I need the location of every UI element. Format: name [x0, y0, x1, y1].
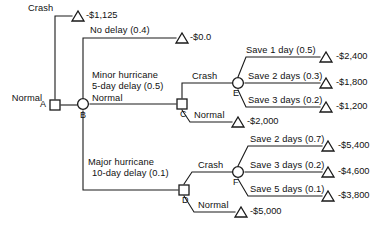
branch-label-normal-a-left: Normal — [0, 93, 57, 104]
edge-c-crash — [182, 83, 232, 98]
node-b-circle — [78, 99, 89, 110]
branch-label-save-5-days-f: Save 5 days (0.1) — [250, 184, 325, 195]
branch-label-normal-a: Normal — [92, 93, 123, 104]
branch-label-save-3-days-e: Save 3 days (0.2) — [248, 95, 323, 106]
node-c-square — [177, 99, 187, 109]
payoff-save-3-days-e: -$1,200 — [336, 101, 368, 111]
branch-label-normal-d: Normal — [198, 200, 229, 211]
edge-d-crash — [184, 172, 232, 184]
branch-label-crash-top: Crash — [28, 3, 53, 14]
terminal-save-1-day — [320, 52, 332, 62]
branch-label-save-3-days-f: Save 3 days (0.2) — [250, 160, 325, 171]
node-label-b: B — [80, 110, 86, 120]
branch-label-save-1-day: Save 1 day (0.5) — [246, 45, 316, 56]
terminal-crash-top — [72, 11, 84, 21]
payoff-save-2-days-f: -$5,400 — [338, 140, 370, 150]
payoff-no-delay: -$0.0 — [190, 32, 211, 42]
payoff-save-3-days-f: -$4,600 — [338, 166, 370, 176]
terminal-normal-c — [232, 117, 244, 127]
branch-label-crash-d: Crash — [198, 160, 223, 171]
node-e-circle — [233, 78, 244, 89]
node-label-f: F — [233, 177, 239, 187]
branch-label-normal-c: Normal — [194, 110, 225, 121]
branch-label-save-2-days-f: Save 2 days (0.7) — [250, 134, 325, 145]
branch-label-minor-hurricane-line1: Minor hurricane — [92, 70, 158, 82]
payoff-save-5-days-f: -$3,800 — [338, 190, 370, 200]
payoff-save-1-day: -$2,400 — [336, 51, 368, 61]
node-label-d: D — [182, 195, 189, 205]
terminal-no-delay — [176, 33, 188, 43]
branch-label-major-hurricane-line1: Major hurricane — [88, 157, 154, 169]
branch-label-crash-c: Crash — [192, 71, 217, 82]
branch-label-major-hurricane-line2: 10-day delay (0.1) — [92, 168, 169, 180]
node-label-c: C — [180, 109, 187, 119]
payoff-save-2-days-e: -$1,800 — [336, 77, 368, 87]
payoff-crash-top: -$1,125 — [86, 10, 118, 20]
payoff-normal-c: -$2,000 — [247, 116, 279, 126]
decision-tree-diagram: A B C D E F Crash No delay (0.4) Normal … — [0, 0, 380, 227]
branch-label-save-2-days-e: Save 2 days (0.3) — [248, 71, 323, 82]
node-f-circle — [233, 167, 244, 178]
branch-label-minor-hurricane-line2: 5-day delay (0.5) — [92, 81, 163, 93]
terminal-normal-d — [235, 207, 247, 217]
node-d-square — [179, 185, 189, 195]
payoff-normal-d: -$5,000 — [250, 206, 282, 216]
node-label-e: E — [233, 88, 239, 98]
edge-a-crash — [55, 16, 72, 99]
branch-label-no-delay: No delay (0.4) — [90, 25, 150, 36]
